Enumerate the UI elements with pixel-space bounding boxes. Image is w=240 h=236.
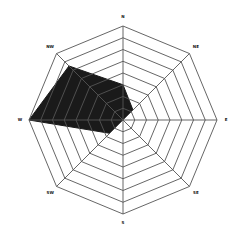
axis-label-ne: NE	[193, 45, 199, 49]
radar-chart: NNEESESSWWNW	[0, 0, 240, 236]
axis-label-nw: NW	[46, 45, 54, 49]
axis-label-e: E	[225, 118, 228, 122]
radar-chart-svg	[0, 0, 240, 236]
axis-label-n: N	[121, 15, 124, 19]
data-polygon	[29, 66, 133, 133]
axis-label-w: W	[18, 118, 22, 122]
axis-label-sw: SW	[47, 191, 54, 195]
axis-label-se: SE	[193, 191, 199, 195]
axis-label-s: S	[122, 221, 125, 225]
